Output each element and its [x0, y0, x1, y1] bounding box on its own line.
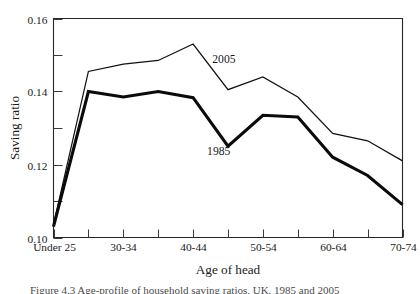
x-tick-label: 30-34 [110, 241, 137, 253]
y-tick-label: 0.14 [28, 86, 48, 98]
x-tick-label: 60-64 [320, 241, 347, 253]
series-annotation-1985: 1985 [207, 145, 230, 158]
figure-caption: Figure 4.3 Age-profile of household savi… [30, 284, 420, 294]
y-axis-title: Saving ratio [7, 96, 22, 161]
series-annotation-2005: 2005 [212, 53, 235, 66]
x-tick-label: 50-54 [250, 241, 277, 253]
y-tick-label: 0.16 [28, 14, 48, 26]
x-tick-label: 70-74 [390, 241, 417, 253]
y-tick-label: 0.12 [28, 160, 48, 172]
x-tick-label: Under 25 [33, 241, 76, 253]
x-tick-label: 40-44 [180, 241, 207, 253]
x-axis-title: Age of head [196, 262, 261, 277]
